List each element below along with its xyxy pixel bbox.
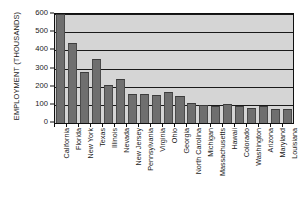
x-tick-mark — [210, 124, 211, 127]
bar-slot — [138, 14, 150, 123]
bar-slot — [150, 14, 162, 123]
x-tick-mark — [54, 124, 55, 127]
bar-slot — [91, 14, 103, 123]
x-label-cell: Nevada — [114, 128, 126, 200]
bar[interactable] — [199, 105, 208, 123]
x-label-cell: New York — [78, 128, 90, 200]
employment-bar-chart: EMPLOYMENT (THOUSANDS) 60050040030020010… — [0, 0, 298, 203]
bar-slot — [126, 14, 138, 123]
x-tick-mark — [162, 124, 163, 127]
bar[interactable] — [56, 14, 65, 123]
bar-slot — [269, 14, 281, 123]
bar-slot — [79, 14, 91, 123]
x-tick-mark — [198, 124, 199, 127]
bar-slot — [257, 14, 269, 123]
bar[interactable] — [140, 94, 149, 123]
x-label-cell: Washington — [246, 128, 258, 200]
x-tick-mark — [270, 124, 271, 127]
y-tick-label: 600 — [35, 9, 48, 17]
y-tick-label: 500 — [35, 27, 48, 35]
bar[interactable] — [128, 94, 137, 123]
bar[interactable] — [164, 92, 173, 123]
y-tick-label: 200 — [35, 82, 48, 90]
y-tick-label: 100 — [35, 100, 48, 108]
plot-area — [54, 13, 294, 124]
x-label-cell: Virginia — [150, 128, 162, 200]
x-label-cell: Pennsylvania — [138, 128, 150, 200]
bar-slot — [234, 14, 246, 123]
bar-slot — [210, 14, 222, 123]
bar-slot — [186, 14, 198, 123]
bar[interactable] — [283, 109, 292, 123]
x-tick-mark — [258, 124, 259, 127]
x-tick-mark — [222, 124, 223, 127]
bars-container — [55, 14, 293, 123]
x-axis-category-label: Louisiana — [291, 128, 298, 159]
x-tick-mark — [138, 124, 139, 127]
x-label-cell: Texas — [90, 128, 102, 200]
bar[interactable] — [223, 104, 232, 123]
x-tick-mark — [234, 124, 235, 127]
x-tick-mark — [126, 124, 127, 127]
x-label-cell: Florida — [66, 128, 78, 200]
bar[interactable] — [235, 106, 244, 123]
bar-slot — [281, 14, 293, 123]
x-label-cell: Louisiana — [282, 128, 294, 200]
x-tick-mark — [174, 124, 175, 127]
x-label-cell: Michigan — [198, 128, 210, 200]
x-label-cell: North Carolina — [186, 128, 198, 200]
x-tick-mark — [66, 124, 67, 127]
bar-slot — [115, 14, 127, 123]
bar-slot — [103, 14, 115, 123]
x-tick-mark — [186, 124, 187, 127]
bar[interactable] — [271, 109, 280, 123]
y-tick-label: 0 — [44, 118, 48, 126]
x-label-cell: Ohio — [162, 128, 174, 200]
bar-slot — [174, 14, 186, 123]
bar[interactable] — [152, 95, 161, 123]
bar-slot — [162, 14, 174, 123]
x-tick-mark — [90, 124, 91, 127]
bar-slot — [246, 14, 258, 123]
bar[interactable] — [247, 108, 256, 123]
x-tick-mark — [150, 124, 151, 127]
bar-slot — [222, 14, 234, 123]
x-label-cell: Hawaii — [222, 128, 234, 200]
x-label-cell: New Jersey — [126, 128, 138, 200]
x-label-cell: Illinois — [102, 128, 114, 200]
bar-slot — [67, 14, 79, 123]
x-label-cell: Massachusetts — [210, 128, 222, 200]
y-tick-label: 400 — [35, 45, 48, 53]
bar-slot — [55, 14, 67, 123]
x-label-cell: Colorado — [234, 128, 246, 200]
x-tick-mark — [102, 124, 103, 127]
bar[interactable] — [92, 59, 101, 123]
bar-slot — [198, 14, 210, 123]
x-tick-mark — [282, 124, 283, 127]
x-label-cell: California — [54, 128, 66, 200]
bar[interactable] — [175, 96, 184, 123]
bar[interactable] — [211, 106, 220, 123]
y-tick-label: 300 — [35, 64, 48, 72]
x-tick-mark — [246, 124, 247, 127]
x-axis-tick-labels: CaliforniaFloridaNew YorkTexasIllinoisNe… — [54, 128, 294, 200]
bar[interactable] — [187, 103, 196, 123]
bar[interactable] — [116, 79, 125, 123]
x-label-cell: Georgia — [174, 128, 186, 200]
x-label-cell: Maryland — [270, 128, 282, 200]
x-label-cell: Arizona — [258, 128, 270, 200]
bar[interactable] — [104, 85, 113, 123]
bar[interactable] — [68, 43, 77, 123]
x-tick-mark — [78, 124, 79, 127]
bar[interactable] — [80, 72, 89, 123]
x-tick-mark — [114, 124, 115, 127]
y-axis-tick-labels: 6005004003002001000 — [22, 8, 48, 124]
bar[interactable] — [259, 106, 268, 123]
